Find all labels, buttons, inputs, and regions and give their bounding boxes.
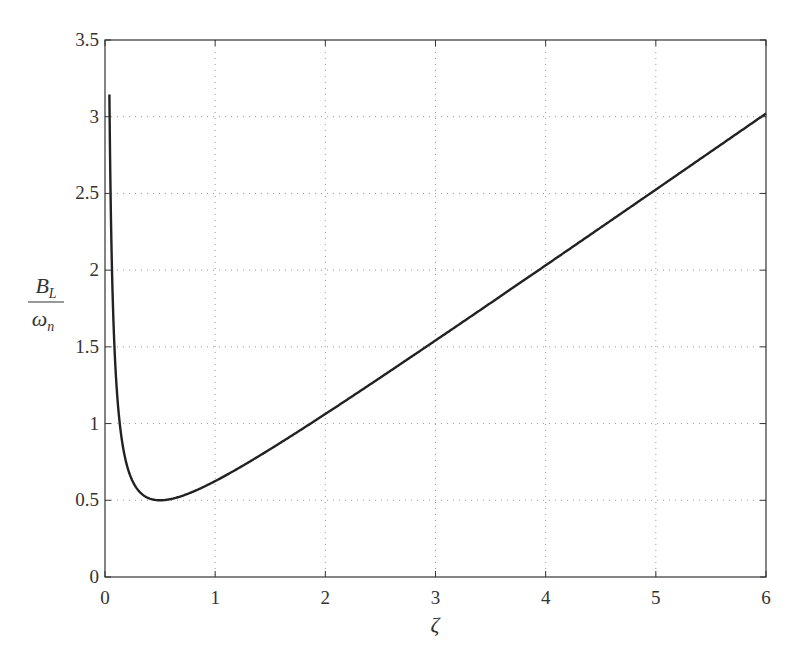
y-axis-label: BL ωn xyxy=(28,273,64,334)
x-tick-label: 3 xyxy=(431,587,441,608)
y-label-denominator-sub: n xyxy=(47,319,54,334)
data-series xyxy=(109,94,766,500)
y-tick-labels: 00.511.522.533.5 xyxy=(75,29,99,587)
x-axis-label: ζ xyxy=(431,612,442,637)
y-tick-label: 2 xyxy=(90,259,100,280)
y-tick-label: 1.5 xyxy=(75,336,99,357)
x-tick-labels: 0123456 xyxy=(100,587,771,608)
chart: 0123456 00.511.522.533.5 ζ BL ωn xyxy=(0,0,803,664)
series-line xyxy=(109,94,766,500)
y-tick-label: 2.5 xyxy=(75,182,99,203)
svg-text:BL: BL xyxy=(35,273,56,301)
x-tick-label: 6 xyxy=(761,587,771,608)
x-tick-label: 1 xyxy=(210,587,220,608)
y-label-numerator: B xyxy=(35,273,48,298)
y-label-numerator-sub: L xyxy=(48,286,57,301)
y-tick-label: 1 xyxy=(90,413,100,434)
x-tick-label: 0 xyxy=(100,587,110,608)
y-tick-label: 0 xyxy=(90,566,100,587)
y-label-denominator: ω xyxy=(32,306,48,331)
y-tick-label: 3.5 xyxy=(75,29,99,50)
svg-text:ωn: ωn xyxy=(32,306,55,334)
y-tick-label: 3 xyxy=(90,106,100,127)
x-tick-label: 2 xyxy=(321,587,331,608)
x-tick-label: 4 xyxy=(541,587,551,608)
y-tick-label: 0.5 xyxy=(75,489,99,510)
grid-lines xyxy=(105,40,766,577)
x-tick-label: 5 xyxy=(651,587,661,608)
